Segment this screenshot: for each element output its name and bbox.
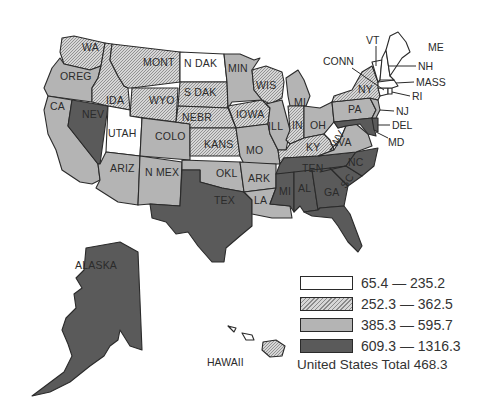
legend-label: 65.4 — 235.2 [361, 275, 445, 291]
label-miss: MI [279, 185, 291, 197]
legend-label: 252.3 — 362.5 [361, 296, 453, 312]
label-conn: CONN [323, 55, 354, 67]
label-nebr: NEBR [182, 111, 212, 123]
label-ariz: ARIZ [110, 162, 135, 174]
leader-line [392, 92, 410, 96]
label-me: ME [428, 41, 444, 53]
label-mass: MASS [416, 76, 446, 88]
legend-swatch-dark [300, 339, 353, 353]
label-min: MIN [228, 62, 248, 74]
label-ida: IDA [106, 94, 124, 106]
label-nh: NH [418, 60, 433, 72]
label-mo: MO [246, 144, 263, 156]
label-mont: MONT [143, 56, 175, 68]
label-al: AL [298, 182, 311, 194]
state-me [386, 32, 410, 76]
state-mass [378, 80, 398, 88]
label-mi: MI [294, 96, 306, 108]
label-ri: RI [412, 90, 423, 102]
label-ky: KY [306, 141, 320, 153]
legend-swatch-lightgray [300, 318, 353, 332]
label-wyo: WYO [149, 94, 175, 106]
label-pa: PA [348, 103, 362, 115]
label-wa: WA [82, 41, 99, 53]
legend-label: 385.3 — 595.7 [361, 317, 453, 333]
leader-line [396, 82, 414, 83]
label-ca: CA [50, 100, 65, 112]
label-oh: OH [310, 119, 326, 131]
label-vt: VT [366, 34, 380, 46]
hawaii-island-small [242, 333, 254, 340]
state-hawaii [262, 340, 285, 357]
label-utah: UTAH [108, 127, 137, 139]
leader-line [376, 132, 388, 138]
label-nmex: N MEX [145, 166, 179, 178]
state-ariz [96, 152, 140, 205]
leader-line [380, 110, 394, 111]
label-ark: ARK [248, 172, 270, 184]
hawaii-island-small [228, 326, 236, 332]
state-fl [304, 206, 362, 252]
label-okl: OKL [216, 167, 238, 179]
label-wis: WIS [256, 79, 276, 91]
label-colo: COLO [155, 130, 186, 142]
state-ri [388, 88, 392, 94]
label-nc: NC [348, 156, 364, 168]
state-nmex [138, 156, 182, 206]
label-nj: NJ [396, 105, 409, 117]
label-del: DEL [392, 119, 413, 131]
label-ny: NY [358, 83, 373, 95]
legend-swatch-white [300, 276, 353, 290]
legend-label: 609.3 — 1316.3 [361, 338, 461, 354]
legend-item: 609.3 — 1316.3 [300, 335, 482, 356]
label-ill: ILL [268, 120, 283, 132]
legend-item: 252.3 — 362.5 [300, 293, 482, 314]
label-kans: KANS [204, 138, 233, 150]
label-ga: GA [324, 186, 340, 198]
label-ndak: N DAK [184, 57, 217, 69]
label-oreg: OREG [60, 70, 92, 82]
label-tex: TEX [214, 194, 235, 206]
label-hawaii: HAWAII [207, 356, 244, 368]
label-md: MD [388, 136, 405, 148]
legend-item: 385.3 — 595.7 [300, 314, 482, 335]
label-sdak: S DAK [184, 86, 217, 98]
label-ten: TEN [302, 162, 324, 174]
legend: 65.4 — 235.2 252.3 — 362.5 385.3 — 595.7… [300, 272, 482, 356]
label-la: LA [254, 194, 267, 206]
label-in: IN [292, 119, 303, 131]
label-alaska: ALASKA [75, 259, 117, 271]
us-total-label: United States Total 468.3 [297, 357, 448, 372]
legend-swatch-hatched [300, 297, 353, 311]
legend-item: 65.4 — 235.2 [300, 272, 482, 293]
label-nev: NEV [82, 108, 104, 120]
label-iowa: IOWA [236, 108, 264, 120]
